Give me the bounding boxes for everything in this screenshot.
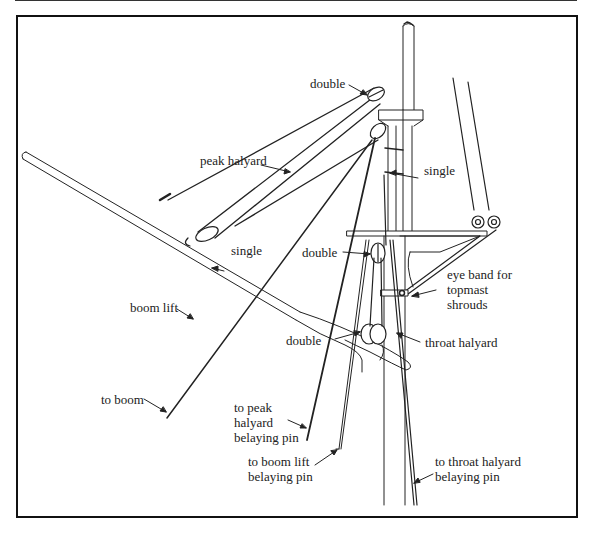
boom-lift-fall: [336, 240, 369, 449]
label-to-boom: to boom: [101, 392, 144, 407]
label-eye-band: eye band for topmast shrouds: [447, 267, 512, 312]
label-single-mast: single: [424, 163, 455, 178]
label-double-top: double: [310, 76, 345, 91]
gaff: [22, 152, 411, 372]
lower-mast: [385, 110, 412, 235]
mast-cap: [379, 110, 423, 126]
label-to-throat-pin: to throat halyard belaying pin: [435, 454, 521, 484]
topmast: [403, 22, 414, 110]
label-to-peak-pin: to peak halyard belaying pin: [234, 400, 299, 445]
label-to-boom-lift-pin: to boom lift belaying pin: [248, 454, 313, 484]
peak-halyard-lines: [160, 88, 380, 238]
label-double-low: double: [286, 333, 321, 348]
label-throat-halyard: throat halyard: [425, 335, 498, 350]
label-single-gaff: single: [231, 243, 262, 258]
boom-lift-line: [167, 140, 372, 418]
label-boom-lift: boom lift: [130, 300, 178, 315]
label-peak-halyard: peak halyard: [200, 153, 267, 168]
label-double-mid: double: [302, 245, 337, 260]
